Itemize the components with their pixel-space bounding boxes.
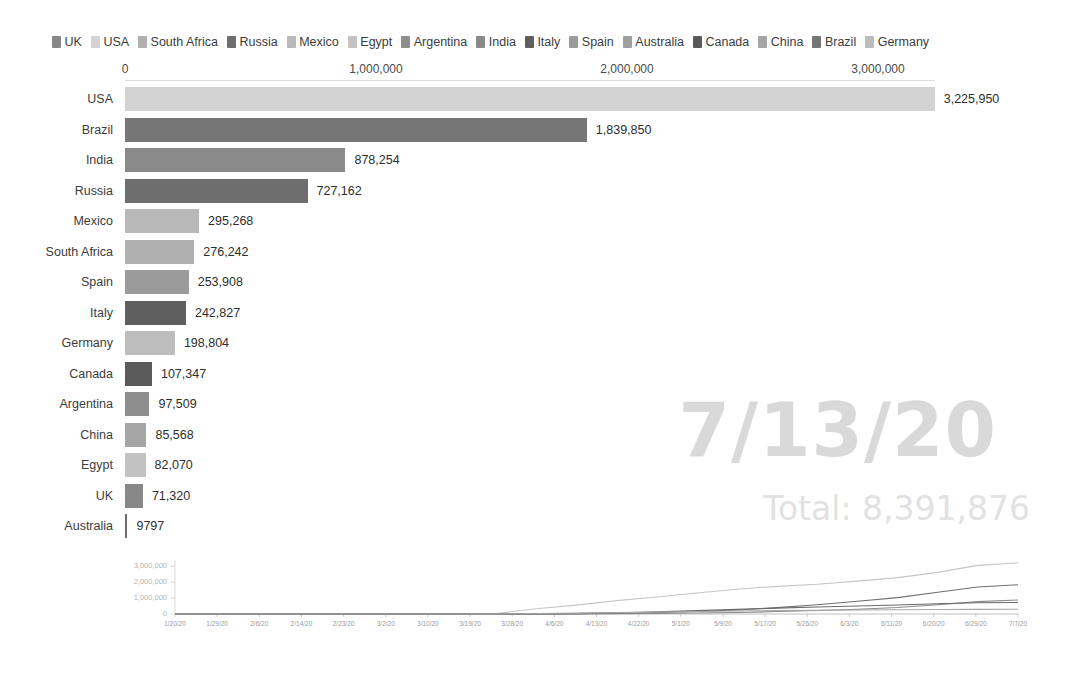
bar-row[interactable]: Brazil1,839,850 (0, 115, 1085, 145)
legend-swatch-icon (525, 36, 534, 48)
legend-item[interactable]: USA (91, 36, 129, 48)
bar-rect[interactable] (125, 514, 127, 538)
legend-item-label: India (489, 36, 516, 48)
sparkline-x-label: 6/11/20 (881, 620, 902, 627)
bar-row[interactable]: Russia727,162 (0, 176, 1085, 206)
legend-item[interactable]: Brazil (812, 36, 856, 48)
sparkline-y-label: 2,000,000 (105, 578, 167, 586)
bar-rect[interactable] (125, 362, 152, 386)
bar-value-label: 85,568 (155, 420, 193, 450)
legend-item[interactable]: Germany (865, 36, 929, 48)
legend-item[interactable]: Russia (227, 36, 278, 48)
sparkline-series (175, 609, 1018, 614)
legend-item[interactable]: UK (52, 36, 82, 48)
legend-item[interactable]: Spain (569, 36, 613, 48)
legend-swatch-icon (693, 36, 702, 48)
sparkline-x-label: 5/9/20 (714, 620, 732, 627)
legend-item[interactable]: Argentina (401, 36, 467, 48)
legend-item-label: South Africa (151, 36, 218, 48)
sparkline-x-label: 5/1/20 (672, 620, 690, 627)
bar-rect[interactable] (125, 209, 199, 233)
current-date-label: 7/13/20 (678, 393, 997, 467)
top-axis: 01,000,0002,000,0003,000,000 (0, 62, 1085, 82)
bar-rect[interactable] (125, 179, 308, 203)
sparkline-y-label: 0 (105, 610, 167, 618)
bar-category-label: China (0, 420, 113, 450)
bar-value-label: 82,070 (155, 450, 193, 480)
sparkline-series (175, 600, 1018, 614)
bar-category-label: Italy (0, 298, 113, 328)
legend-swatch-icon (287, 36, 296, 48)
legend-swatch-icon (812, 36, 821, 48)
legend-item-label: Italy (537, 36, 560, 48)
legend-item[interactable]: Mexico (287, 36, 339, 48)
bar-row[interactable]: Spain253,908 (0, 267, 1085, 297)
legend-item-label: China (771, 36, 804, 48)
sparkline-x-label: 7/7/20 (1009, 620, 1027, 627)
axis-tick-label: 3,000,000 (851, 62, 904, 76)
bar-row[interactable]: USA3,225,950 (0, 84, 1085, 114)
bar-category-label: Mexico (0, 206, 113, 236)
bar-rect[interactable] (125, 148, 345, 172)
legend-swatch-icon (227, 36, 236, 48)
sparkline-y-label: 3,000,000 (105, 562, 167, 570)
bar-category-label: Canada (0, 359, 113, 389)
bar-row[interactable]: India878,254 (0, 145, 1085, 175)
axis-tick-label: 0 (122, 62, 129, 76)
legend-item[interactable]: China (758, 36, 803, 48)
sparkline-x-label: 4/22/20 (628, 620, 650, 627)
total-cases-label: Total: 8,391,876 (763, 492, 1030, 525)
legend-item[interactable]: Egypt (348, 36, 392, 48)
sparkline-x-label: 2/23/20 (333, 620, 355, 627)
bar-rect[interactable] (125, 240, 194, 264)
bar-value-label: 727,162 (317, 176, 362, 206)
legend-swatch-icon (569, 36, 578, 48)
bar-rect[interactable] (125, 87, 935, 111)
bar-rect[interactable] (125, 118, 587, 142)
bar-category-label: USA (0, 84, 113, 114)
sparkline-x-label: 6/3/20 (840, 620, 858, 627)
bar-list: USA3,225,950Brazil1,839,850India878,254R… (0, 84, 1085, 546)
bar-rect[interactable] (125, 270, 189, 294)
bar-value-label: 253,908 (198, 267, 243, 297)
legend-item-label: UK (65, 36, 82, 48)
bar-category-label: Argentina (0, 389, 113, 419)
sparkline-x-label: 2/6/20 (250, 620, 268, 627)
bar-rect[interactable] (125, 484, 143, 508)
bar-value-label: 71,320 (152, 481, 190, 511)
bar-rect[interactable] (125, 453, 146, 477)
bar-value-label: 107,347 (161, 359, 206, 389)
bar-row[interactable]: South Africa276,242 (0, 237, 1085, 267)
sparkline-x-label: 5/26/20 (796, 620, 818, 627)
timeseries-sparkline: 3,000,0002,000,0001,000,00001/20/201/29/… (0, 552, 1085, 642)
sparkline-x-label: 6/20/20 (923, 620, 945, 627)
legend-item-label: USA (103, 36, 129, 48)
bar-row[interactable]: Mexico295,268 (0, 206, 1085, 236)
bar-row[interactable]: Canada107,347 (0, 359, 1085, 389)
bar-row[interactable]: Germany198,804 (0, 328, 1085, 358)
bar-value-label: 198,804 (184, 328, 229, 358)
sparkline-x-label: 2/14/20 (291, 620, 313, 627)
legend-swatch-icon (623, 36, 632, 48)
sparkline-x-label: 1/29/20 (206, 620, 228, 627)
bar-value-label: 97,509 (158, 389, 196, 419)
sparkline-x-label: 4/6/20 (545, 620, 563, 627)
bar-rect[interactable] (125, 331, 175, 355)
sparkline-series (175, 563, 1018, 614)
bar-rect[interactable] (125, 301, 186, 325)
bar-value-label: 9797 (136, 511, 164, 541)
sparkline-x-label: 3/10/20 (417, 620, 439, 627)
bar-category-label: Egypt (0, 450, 113, 480)
legend-item[interactable]: Australia (623, 36, 684, 48)
bar-rect[interactable] (125, 423, 146, 447)
sparkline-x-label: 4/13/20 (586, 620, 608, 627)
legend-item[interactable]: Italy (525, 36, 560, 48)
sparkline-x-label: 1/20/20 (164, 620, 186, 627)
legend-item[interactable]: India (476, 36, 516, 48)
legend-swatch-icon (138, 36, 147, 48)
bar-rect[interactable] (125, 392, 149, 416)
legend-item[interactable]: Canada (693, 36, 749, 48)
legend-item[interactable]: South Africa (138, 36, 218, 48)
bar-row[interactable]: Italy242,827 (0, 298, 1085, 328)
sparkline-x-label: 3/2/20 (377, 620, 395, 627)
